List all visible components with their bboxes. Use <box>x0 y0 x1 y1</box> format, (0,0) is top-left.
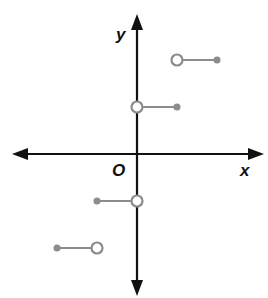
open-endpoint-icon <box>172 55 183 66</box>
origin-label: O <box>112 161 125 180</box>
open-endpoint-icon <box>132 196 143 207</box>
step-function-graph: y x O <box>0 0 268 298</box>
open-endpoint-icon <box>132 102 143 113</box>
closed-endpoint-icon <box>94 198 101 205</box>
closed-endpoint-icon <box>174 104 181 111</box>
x-axis-label: x <box>239 161 251 180</box>
x-axis-right-arrow-icon <box>248 148 264 160</box>
closed-endpoint-icon <box>214 57 221 64</box>
open-endpoint-icon <box>92 243 103 254</box>
closed-endpoint-icon <box>54 245 61 252</box>
segment-3 <box>54 243 103 254</box>
segment-1 <box>172 55 221 66</box>
x-axis-left-arrow-icon <box>12 148 28 160</box>
segment-0 <box>132 102 181 113</box>
y-axis-up-arrow-icon <box>131 14 143 30</box>
axes <box>12 14 264 296</box>
y-axis-label: y <box>115 25 127 44</box>
segment-2 <box>94 196 143 207</box>
y-axis-down-arrow-icon <box>131 280 143 296</box>
